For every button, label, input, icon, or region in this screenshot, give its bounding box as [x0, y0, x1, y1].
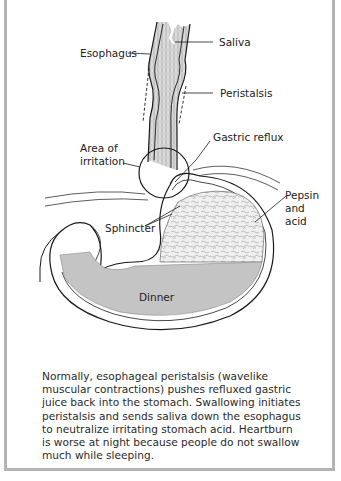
label-dinner: Dinner	[139, 291, 174, 304]
label-area-of-irritation-line2: irritation	[80, 155, 125, 168]
figure-caption: Normally, esophageal peristalsis (waveli…	[42, 370, 304, 462]
label-pepsin-line3: acid	[285, 215, 319, 228]
label-area-of-irritation: Area of irritation	[80, 142, 125, 168]
label-pepsin-line1: Pepsin	[285, 189, 319, 202]
label-gastric-reflux: Gastric reflux	[213, 131, 284, 144]
label-sphincter: Sphincter	[105, 222, 155, 235]
label-saliva: Saliva	[219, 36, 251, 49]
label-peristalsis: Peristalsis	[220, 87, 272, 100]
label-esophagus: Esophagus	[80, 47, 137, 60]
label-pepsin-and-acid: Pepsin and acid	[285, 189, 319, 228]
label-area-of-irritation-line1: Area of	[80, 142, 125, 155]
label-pepsin-line2: and	[285, 202, 319, 215]
